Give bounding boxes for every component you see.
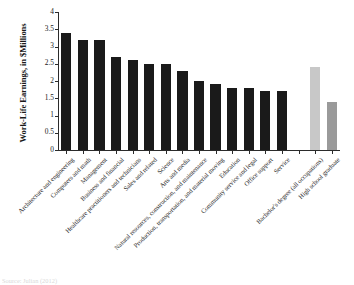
y-tick-mark [55, 116, 59, 117]
bar [94, 40, 104, 150]
x-tick-mark [182, 150, 183, 154]
plot-area: 00.511.522.533.54 [58, 12, 340, 150]
x-tick-mark [116, 150, 117, 154]
x-tick-mark [99, 150, 100, 154]
y-tick: 4 [58, 12, 62, 13]
bar [61, 33, 71, 150]
x-tick-mark [149, 150, 150, 154]
bar [310, 67, 320, 150]
bar [161, 64, 171, 150]
y-tick-mark [55, 150, 59, 151]
bar [260, 91, 270, 150]
x-tick-mark [332, 150, 333, 154]
bar [244, 88, 254, 150]
bar [327, 102, 337, 150]
x-tick-label: Service [272, 156, 291, 175]
x-tick-mark [133, 150, 134, 154]
chart-figure: Work-Life Earnings, in $Millions 00.511.… [0, 0, 354, 285]
source-note: Source: Julian (2012) [2, 277, 57, 284]
bar [144, 64, 154, 150]
y-tick-label: 0 [50, 145, 54, 154]
y-tick-mark [55, 133, 59, 134]
bar [78, 40, 88, 150]
bar [128, 60, 138, 150]
y-tick: 0 [58, 150, 62, 151]
y-tick-mark [55, 12, 59, 13]
bar [210, 84, 220, 150]
bar [227, 88, 237, 150]
bar [194, 81, 204, 150]
x-tick-mark [282, 150, 283, 154]
bar [277, 91, 287, 150]
x-tick-mark [199, 150, 200, 154]
x-tick-mark [299, 150, 300, 154]
y-tick: 3.5 [58, 29, 62, 30]
y-tick-mark [55, 81, 59, 82]
y-tick-label: 3 [50, 41, 54, 50]
x-tick-mark [249, 150, 250, 154]
y-tick-label: 4 [50, 7, 54, 16]
bar [177, 71, 187, 150]
x-tick-mark [66, 150, 67, 154]
y-tick-label: 3.5 [45, 24, 54, 33]
x-tick-mark [216, 150, 217, 154]
y-tick-label: 0.5 [45, 127, 54, 136]
y-tick-label: 1 [50, 110, 54, 119]
x-tick-mark [83, 150, 84, 154]
x-axis-labels: Architecture and engineeringComputers an… [58, 156, 340, 276]
y-axis-title: Work-Life Earnings, in $Millions [18, 8, 28, 158]
y-tick-label: 2 [50, 76, 54, 85]
y-tick-label: 1.5 [45, 93, 54, 102]
bar [111, 57, 121, 150]
y-tick-mark [55, 47, 59, 48]
x-tick-mark [315, 150, 316, 154]
y-tick-mark [55, 98, 59, 99]
y-tick-mark [55, 29, 59, 30]
y-tick-mark [55, 64, 59, 65]
y-tick-label: 2.5 [45, 58, 54, 67]
x-tick-mark [166, 150, 167, 154]
x-tick-mark [232, 150, 233, 154]
x-tick-mark [265, 150, 266, 154]
